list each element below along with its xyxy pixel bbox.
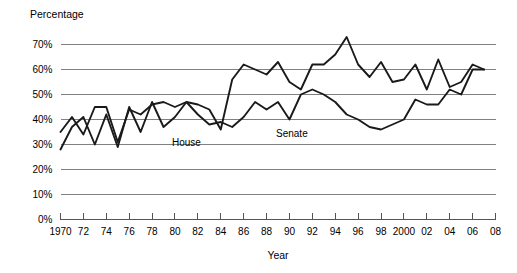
x-tick-label-1996: 96 [353,226,365,237]
series-line-house [61,70,485,150]
x-tick-label-2006: 06 [467,226,479,237]
y-tick-label-30: 30% [32,139,52,150]
series-label-house: House [172,137,201,148]
x-tick-label-1988: 88 [261,226,273,237]
x-tick-label-1978: 78 [147,226,159,237]
y-tick-label-0: 0% [38,214,53,225]
x-tick-label-1984: 84 [215,226,227,237]
x-tick-label-1994: 94 [330,226,342,237]
x-tick-label-1974: 74 [101,226,113,237]
x-tick-label-1970: 1970 [49,226,72,237]
x-tick-label-2004: 04 [444,226,456,237]
y-tick-label-70: 70% [32,39,52,50]
x-tick-label-1986: 86 [238,226,250,237]
series-label-senate: Senate [276,128,308,139]
y-tick-label-40: 40% [32,114,52,125]
series-line-senate [61,37,485,142]
x-axis-title: Year [267,249,289,261]
y-tick-label-50: 50% [32,89,52,100]
x-tick-label-2008: 08 [490,226,502,237]
x-tick-label-1982: 82 [192,226,204,237]
line-chart: Percentage70%60%50%40%30%20%10%0%1970727… [0,0,517,273]
y-axis-title: Percentage [30,8,84,20]
x-tick-label-2000: 2000 [393,226,416,237]
x-tick-label-1972: 72 [78,226,90,237]
chart-container: Percentage70%60%50%40%30%20%10%0%1970727… [0,0,517,273]
x-tick-label-1992: 92 [307,226,319,237]
x-tick-label-1998: 98 [375,226,387,237]
x-tick-label-1980: 80 [169,226,181,237]
x-tick-label-2002: 02 [421,226,433,237]
x-tick-label-1990: 90 [284,226,296,237]
y-tick-label-20: 20% [32,164,52,175]
y-tick-label-60: 60% [32,64,52,75]
x-tick-label-1976: 76 [124,226,136,237]
y-tick-label-10: 10% [32,189,52,200]
